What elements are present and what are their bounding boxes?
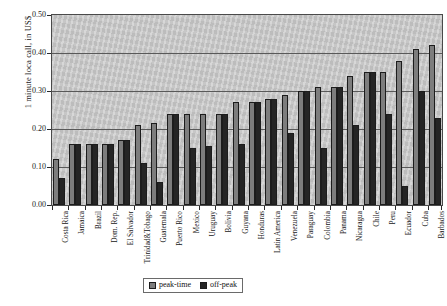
- chart-legend: peak-timeoff-peak: [143, 278, 243, 293]
- x-axis-tick-mark: [183, 206, 184, 210]
- legend-item: off-peak: [200, 280, 237, 290]
- bar-chart: 1 minute loca call, in US$ 0.500.400.300…: [0, 0, 447, 306]
- bar-group: [135, 15, 147, 205]
- x-axis-category-label: Barbados: [438, 211, 446, 273]
- x-axis-tick-mark: [264, 206, 265, 210]
- x-axis-tick-mark: [166, 206, 167, 210]
- x-axis-category-label: Brazil: [95, 211, 103, 273]
- plot-area: [51, 14, 443, 206]
- x-axis-tick-mark: [281, 206, 282, 210]
- bar-off-peak: [190, 148, 196, 205]
- bar-off-peak: [141, 163, 147, 205]
- x-axis-category-label: Paraguay: [307, 211, 315, 273]
- bar-off-peak: [370, 72, 376, 205]
- bar-group: [102, 15, 114, 205]
- bar-group: [151, 15, 163, 205]
- x-axis-tick-mark: [199, 206, 200, 210]
- bar-off-peak: [206, 146, 212, 205]
- bar-off-peak: [288, 133, 294, 205]
- x-axis-tick-mark: [379, 206, 380, 210]
- bar-group: [167, 15, 179, 205]
- x-axis-tick-mark: [215, 206, 216, 210]
- bar-group: [249, 15, 261, 205]
- y-axis-tick-label: 0.00: [16, 201, 46, 209]
- bar-off-peak: [353, 125, 359, 205]
- legend-swatch-peak: [149, 282, 156, 289]
- y-axis-tick-labels: 0.500.400.300.200.100.00: [16, 14, 46, 206]
- bar-group: [429, 15, 441, 205]
- bar-off-peak: [321, 148, 327, 205]
- y-axis-tick-label: 0.10: [16, 163, 46, 171]
- legend-item: peak-time: [149, 280, 191, 290]
- bar-group: [331, 15, 343, 205]
- x-axis-category-label: Dom. Rep.: [111, 211, 119, 273]
- x-axis-category-label: El Salvador: [127, 211, 135, 273]
- bar-off-peak: [92, 144, 98, 205]
- bar-off-peak: [124, 140, 130, 205]
- bar-group: [413, 15, 425, 205]
- x-axis-tick-mark: [101, 206, 102, 210]
- bar-peak-time: [396, 61, 402, 205]
- x-axis-tick-mark: [428, 206, 429, 210]
- bar-group: [184, 15, 196, 205]
- legend-swatch-offpeak: [200, 282, 207, 289]
- bar-off-peak: [271, 99, 277, 205]
- legend-label: peak-time: [159, 280, 191, 290]
- x-axis-tick-mark: [346, 206, 347, 210]
- x-axis-category-label: Nicaragua: [356, 211, 364, 273]
- bar-group: [396, 15, 408, 205]
- x-axis-category-label: Bolivia: [225, 211, 233, 273]
- x-axis-category-label: Uruguay: [209, 211, 217, 273]
- x-axis-category-label: Latin America: [274, 211, 282, 273]
- y-axis-tick-label: 0.40: [16, 49, 46, 57]
- x-axis-tick-mark: [330, 206, 331, 210]
- x-axis-category-label: Chile: [373, 211, 381, 273]
- bar-off-peak: [386, 114, 392, 205]
- x-axis-tick-mark: [85, 206, 86, 210]
- x-axis-category-label: Colombia: [324, 211, 332, 273]
- bar-off-peak: [157, 182, 163, 205]
- bar-group: [380, 15, 392, 205]
- bar-group: [200, 15, 212, 205]
- x-axis-category-label: Honduras: [258, 211, 266, 273]
- x-axis-category-label: Venezuela: [291, 211, 299, 273]
- bar-group: [53, 15, 65, 205]
- x-axis-category-label: Peru: [389, 211, 397, 273]
- x-axis-tick-mark: [412, 206, 413, 210]
- x-axis-tick-mark: [150, 206, 151, 210]
- x-axis-category-label: Cuba: [422, 211, 430, 273]
- bar-off-peak: [304, 91, 310, 205]
- bar-off-peak: [435, 118, 441, 205]
- y-axis-tick-label: 0.50: [16, 11, 46, 19]
- bar-groups: [52, 15, 442, 205]
- bar-off-peak: [239, 144, 245, 205]
- y-axis-tick-label: 0.20: [16, 125, 46, 133]
- x-axis-tick-mark: [232, 206, 233, 210]
- bar-group: [315, 15, 327, 205]
- x-axis-category-label: Puerto Rico: [176, 211, 184, 273]
- x-axis-category-label: Trinidad&Tobago: [144, 211, 152, 273]
- x-axis-tick-mark: [68, 206, 69, 210]
- x-axis-tick-mark: [248, 206, 249, 210]
- x-axis-tick-mark: [134, 206, 135, 210]
- x-axis-tick-mark: [117, 206, 118, 210]
- bar-off-peak: [108, 144, 114, 205]
- bar-group: [233, 15, 245, 205]
- bar-off-peak: [59, 178, 65, 205]
- bar-group: [69, 15, 81, 205]
- x-axis-category-label: Mexico: [193, 211, 201, 273]
- bar-group: [298, 15, 310, 205]
- bar-off-peak: [337, 87, 343, 205]
- x-axis-category-label: Guyana: [242, 211, 250, 273]
- bar-off-peak: [402, 186, 408, 205]
- bar-group: [118, 15, 130, 205]
- x-axis-tick-mark: [314, 206, 315, 210]
- bar-group: [265, 15, 277, 205]
- bar-off-peak: [419, 91, 425, 205]
- x-axis-category-label: Guatemala: [160, 211, 168, 273]
- x-axis-tick-mark: [52, 206, 53, 210]
- legend-label: off-peak: [210, 280, 237, 290]
- x-axis-tick-mark: [297, 206, 298, 210]
- x-axis-tick-mark: [441, 206, 442, 210]
- bar-off-peak: [173, 114, 179, 205]
